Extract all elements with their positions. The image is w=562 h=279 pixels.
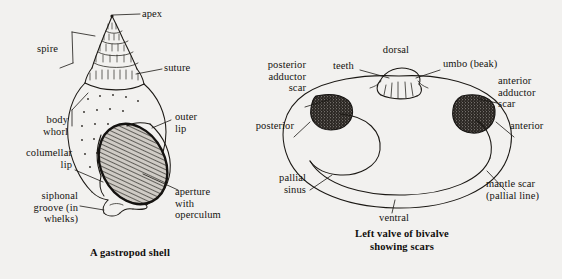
diagram-page: apex spire suture body whorl columellar … bbox=[0, 0, 562, 279]
label-anterior: anterior bbox=[510, 120, 543, 132]
label-posterior-adductor-scar: posterior adductor scar bbox=[240, 59, 306, 94]
label-ventral: ventral bbox=[366, 212, 422, 224]
anterior-adductor-scar bbox=[453, 95, 495, 133]
label-dorsal: dorsal bbox=[368, 44, 424, 56]
posterior-adductor-scar bbox=[311, 94, 353, 130]
label-umbo: umbo (beak) bbox=[443, 58, 497, 70]
label-pallial-sinus: pallial sinus bbox=[244, 172, 306, 195]
caption-bivalve: Left valve of bivalve showing scars bbox=[318, 228, 486, 253]
label-anterior-adductor-scar: anterior adductor scar bbox=[498, 75, 536, 110]
umbo-and-teeth bbox=[370, 68, 428, 99]
label-teeth: teeth bbox=[333, 60, 354, 72]
adductor-scars bbox=[311, 94, 495, 133]
label-mantle-scar: mantle scar (pallial line) bbox=[486, 178, 539, 201]
bivalve-leader-lines bbox=[294, 70, 514, 213]
label-posterior: posterior bbox=[232, 120, 294, 132]
